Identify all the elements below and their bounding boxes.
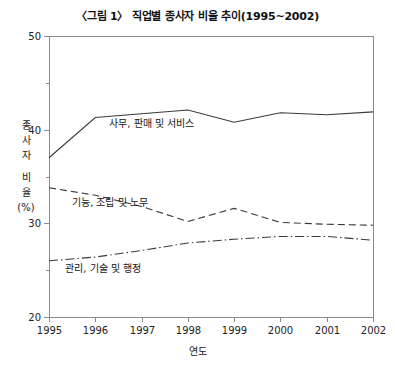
x-tick-label: 1999: [222, 325, 247, 336]
series-label-0: 사무, 판매 및 서비스: [109, 118, 194, 129]
data-series-group: [49, 110, 373, 261]
y-axis-label-spacer: [14, 163, 38, 170]
x-tick-label: 1995: [37, 325, 62, 336]
y-tick-label: 50: [28, 31, 41, 42]
line-chart-plot: 20304050 1995199619971998199920002001200…: [0, 0, 395, 368]
series-line-0: [49, 110, 373, 158]
series-line-2: [49, 236, 373, 260]
x-tick-label: 2002: [361, 325, 386, 336]
y-tick-label: 30: [28, 218, 41, 229]
series-label-1: 기능, 조립 및 노무: [72, 196, 148, 208]
y-axis-label-char-0: 종: [14, 118, 38, 133]
series-label-2: 관리, 기술 및 행정: [65, 263, 141, 274]
y-axis-label-char-2: 자: [14, 148, 38, 163]
x-tick-label: 2001: [315, 325, 340, 336]
x-tick-label: 1996: [83, 325, 108, 336]
axes-group: [50, 37, 374, 318]
y-axis-label: 종 사 자 비 율 (%): [14, 118, 38, 215]
y-axis-label-char-1: 사: [14, 133, 38, 148]
y-tick-label: 20: [28, 312, 41, 323]
x-tick-label: 1998: [176, 325, 201, 336]
x-axis-ticks: 19951996199719981999200020012002: [37, 318, 386, 337]
y-axis-label-char-5: (%): [14, 200, 38, 215]
x-tick-label: 1997: [130, 325, 155, 336]
figure-container: 〈그림 1〉 직업별 종사자 비율 추이(1995~2002) 20304050…: [0, 0, 395, 368]
axis-frame: [50, 37, 374, 318]
series-label-group: 사무, 판매 및 서비스기능, 조립 및 노무관리, 기술 및 행정: [65, 118, 194, 274]
x-tick-label: 2000: [268, 325, 293, 336]
y-axis-label-char-4: 율: [14, 185, 38, 200]
x-axis-label: 연도: [0, 343, 395, 358]
y-axis-label-char-3: 비: [14, 170, 38, 185]
